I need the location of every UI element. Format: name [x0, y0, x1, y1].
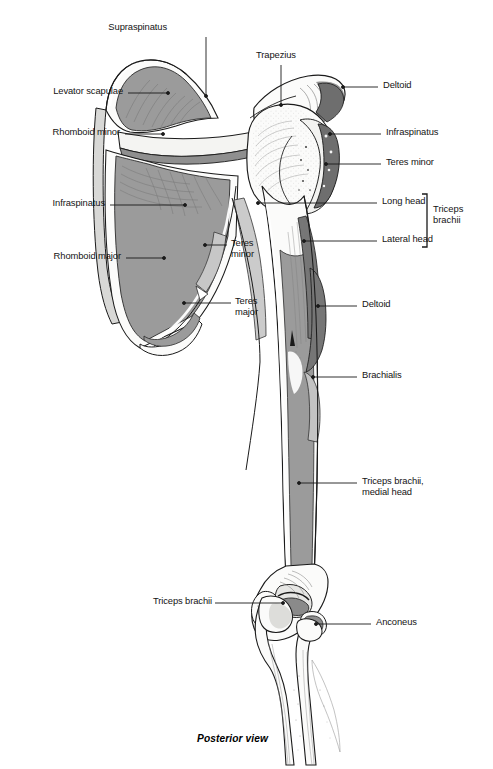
label-deltoid-top: Deltoid	[383, 80, 411, 91]
label-levator-scapulae: Levator scapulae	[0, 86, 123, 97]
leader-dot-brachialis	[312, 376, 315, 379]
label-teres-minor-inner: Teres minor	[231, 238, 254, 260]
label-teres-minor-right: Teres minor	[386, 157, 434, 168]
deltoid-acromion-attachment	[316, 83, 344, 122]
label-triceps-brachii-left: Triceps brachii	[60, 596, 212, 607]
label-triceps-brachii-bracket: Triceps brachii	[433, 204, 463, 226]
figure-caption: Posterior view	[197, 733, 268, 744]
leader-dot-levator-scapulae	[167, 92, 170, 95]
radius-bone	[296, 628, 316, 765]
supraspinatus-muscle-area	[116, 67, 211, 131]
leader-dot-triceps-brachii-left	[282, 602, 285, 605]
leader-dot-teres-minor-inner	[204, 244, 207, 247]
supinator-crest-shading	[312, 660, 340, 752]
leader-dot-triceps-medial-head	[298, 482, 301, 485]
leader-dot-infraspinatus-right	[329, 133, 332, 136]
label-rhomboid-major: Rhomboid major	[0, 251, 121, 262]
label-deltoid-shaft: Deltoid	[362, 299, 390, 310]
leader-dot-anconeus	[315, 623, 318, 626]
leader-dot-supraspinatus	[205, 95, 208, 98]
leader-dot-trapezius	[280, 104, 283, 107]
label-brachialis: Brachialis	[362, 370, 402, 381]
leader-dot-rhomboid-minor	[162, 133, 165, 136]
label-lateral-head: Lateral head	[382, 234, 433, 245]
leader-dot-deltoid-shaft	[317, 305, 320, 308]
leader-dot-infraspinatus-left	[184, 204, 187, 207]
leader-dot-long-head	[257, 202, 260, 205]
label-long-head: Long head	[382, 196, 425, 207]
label-anconeus: Anconeus	[376, 617, 417, 628]
label-rhomboid-minor: Rhomboid minor	[0, 127, 120, 138]
label-trapezius: Trapezius	[256, 50, 296, 61]
label-triceps-medial-head: Triceps brachii, medial head	[362, 476, 424, 498]
leader-dot-teres-major-inner	[183, 302, 186, 305]
label-infraspinatus-right: Infraspinatus	[386, 127, 438, 138]
leader-dot-lateral-head	[303, 240, 306, 243]
leader-dot-teres-minor-right	[325, 163, 328, 166]
leader-dot-deltoid-top	[342, 86, 345, 89]
anatomy-figure: Supraspinatus Trapezius Levator scapulae…	[0, 0, 493, 769]
leader-dot-rhomboid-major	[163, 257, 166, 260]
label-teres-major-inner: Teres major	[235, 296, 258, 318]
label-infraspinatus-left: Infraspinatus	[0, 198, 105, 209]
label-supraspinatus: Supraspinatus	[10, 22, 167, 33]
anatomy-illustration	[0, 0, 493, 769]
